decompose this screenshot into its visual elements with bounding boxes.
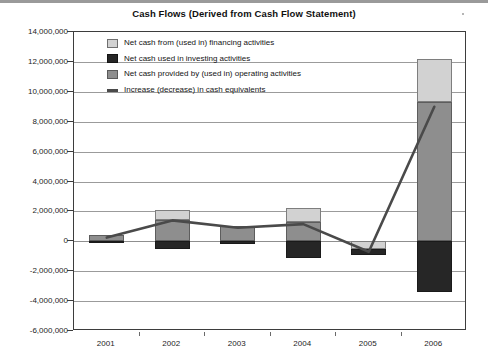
- y-axis-label: 2,000,000: [32, 206, 68, 215]
- x-axis-tick: [270, 332, 271, 336]
- y-axis-label: 12,000,000: [28, 56, 68, 65]
- legend-label: Increase (decrease) in cash equivalents: [124, 85, 265, 95]
- y-axis-label: 4,000,000: [32, 176, 68, 185]
- x-axis-tick: [204, 332, 205, 336]
- legend-item-line[interactable]: Increase (decrease) in cash equivalents: [107, 83, 357, 97]
- legend-item-ops[interactable]: Net cash provided by (used in) operating…: [107, 67, 357, 81]
- x-axis-label-2004: 2004: [293, 339, 311, 348]
- legend-label: Net cash provided by (used in) operating…: [124, 69, 301, 79]
- y-axis-label: -2,000,000: [30, 266, 68, 275]
- y-axis-label: 8,000,000: [32, 116, 68, 125]
- x-axis: 200120022003200420052006: [73, 332, 466, 356]
- y-axis-label: 10,000,000: [28, 86, 68, 95]
- x-axis-label-2006: 2006: [424, 339, 442, 348]
- x-axis-label-2002: 2002: [162, 339, 180, 348]
- y-axis-label: -6,000,000: [30, 326, 68, 335]
- legend-label: Net cash used in investing activities: [124, 54, 250, 64]
- cash-flows-chart: 14,000,00012,000,00010,000,0008,000,0006…: [0, 0, 488, 364]
- legend-item-inv[interactable]: Net cash used in investing activities: [107, 52, 357, 66]
- y-axis-label: 6,000,000: [32, 146, 68, 155]
- x-axis-tick: [139, 332, 140, 336]
- y-axis-tick: [67, 330, 73, 331]
- x-axis-label-2005: 2005: [359, 339, 377, 348]
- x-axis-tick: [335, 332, 336, 336]
- legend-label: Net cash from (used in) financing activi…: [124, 38, 274, 48]
- x-axis-tick: [401, 332, 402, 336]
- x-axis-label-2001: 2001: [97, 339, 115, 348]
- legend-swatch-inv-icon: [107, 54, 118, 63]
- chart-legend: Net cash from (used in) financing activi…: [107, 36, 357, 98]
- legend-item-fin[interactable]: Net cash from (used in) financing activi…: [107, 36, 357, 50]
- y-axis-label: -4,000,000: [30, 296, 68, 305]
- legend-swatch-ops-icon: [107, 70, 118, 79]
- y-axis-label: 14,000,000: [28, 27, 68, 36]
- x-axis-label-2003: 2003: [228, 339, 246, 348]
- legend-swatch-line-icon: [107, 89, 118, 92]
- legend-swatch-fin-icon: [107, 39, 118, 48]
- y-axis: 14,000,00012,000,00010,000,0008,000,0006…: [0, 31, 73, 330]
